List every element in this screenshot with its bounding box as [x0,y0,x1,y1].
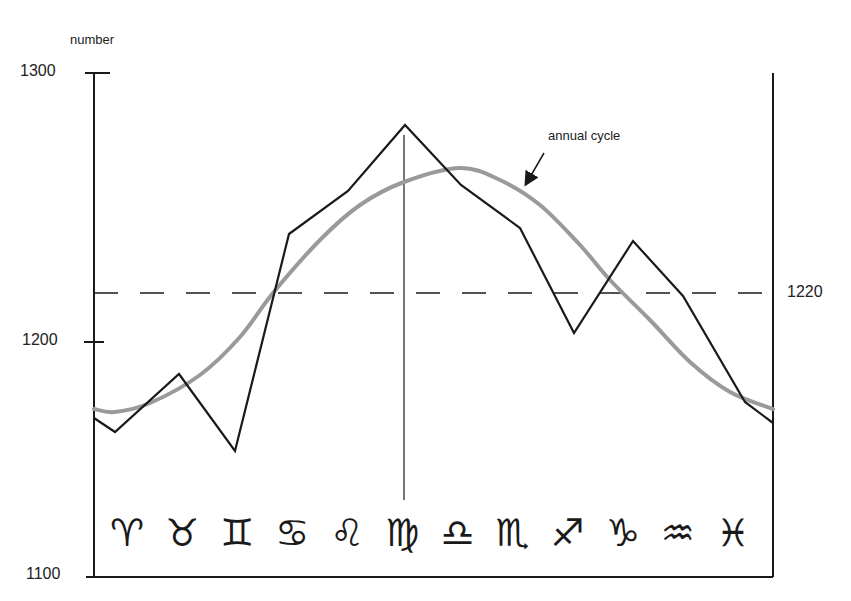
leo-icon: ♌ [320,508,374,558]
libra-icon: ♎ [430,508,484,558]
scorpio-icon: ♏ [486,508,540,558]
gemini-icon: ♊ [210,508,264,558]
pisces-icon: ♓ [706,508,760,558]
taurus-icon: ♉ [155,508,209,558]
annual-cycle-curve [94,168,773,412]
capricorn-icon: ♑ [596,508,650,558]
aries-icon: ♈ [100,508,154,558]
cancer-icon: ♋ [265,508,319,558]
sagittarius-icon: ♐ [541,508,595,558]
annotation-arrow [526,153,544,184]
virgo-icon: ♍ [375,508,429,558]
zodiac-sign-row: ♈ ♉ ♊ ♋ ♌ ♍ ♎ ♏ ♐ ♑ ♒ ♓ [100,508,760,558]
aquarius-icon: ♒ [651,508,705,558]
